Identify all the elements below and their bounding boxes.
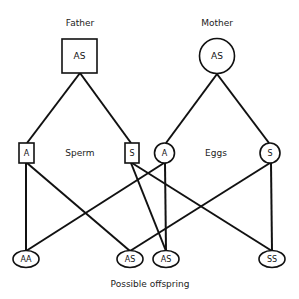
offspring-label: Possible offspring xyxy=(111,279,190,289)
sperm-a-node: A xyxy=(19,143,34,163)
offspring-aa-node: AA xyxy=(13,251,39,268)
connection-lines xyxy=(26,73,272,251)
offspring-ss-node: SS xyxy=(259,251,285,268)
line-sperm-s-to-ss xyxy=(132,163,272,251)
mother-node: AS xyxy=(200,39,235,74)
sperm-label: Sperm xyxy=(65,148,94,158)
line-father-to-sperm-s xyxy=(80,73,131,143)
father-node: AS xyxy=(62,39,97,73)
egg-s-allele: S xyxy=(267,149,272,158)
offspring-ss-genotype: SS xyxy=(267,255,277,264)
inheritance-diagram: Father Mother AS AS A S Sperm A S Eggs A… xyxy=(0,0,299,299)
line-egg-a-to-as2 xyxy=(165,163,166,251)
egg-a-node: A xyxy=(155,143,175,163)
line-egg-s-to-ss xyxy=(271,163,272,251)
line-egg-a-to-aa xyxy=(26,163,164,251)
egg-a-allele: A xyxy=(162,149,168,158)
mother-label: Mother xyxy=(201,18,233,28)
line-egg-s-to-as1 xyxy=(130,163,270,251)
offspring-as2-node: AS xyxy=(153,251,179,268)
offspring-as1-genotype: AS xyxy=(125,255,136,264)
egg-s-node: S xyxy=(260,143,280,163)
line-father-to-sperm-a xyxy=(27,73,80,143)
offspring-aa-genotype: AA xyxy=(20,255,32,264)
line-sperm-a-to-as1 xyxy=(27,163,130,251)
sperm-a-allele: A xyxy=(24,149,30,158)
father-genotype: AS xyxy=(74,51,86,61)
offspring-as1-node: AS xyxy=(117,251,143,268)
father-label: Father xyxy=(66,18,95,28)
line-mother-to-egg-a xyxy=(166,74,217,143)
offspring-as2-genotype: AS xyxy=(161,255,172,264)
sperm-s-node: S xyxy=(125,143,139,163)
eggs-label: Eggs xyxy=(205,148,227,158)
sperm-s-allele: S xyxy=(129,149,134,158)
line-mother-to-egg-s xyxy=(217,74,269,143)
mother-genotype: AS xyxy=(211,51,223,61)
line-sperm-s-to-as2 xyxy=(131,163,166,251)
